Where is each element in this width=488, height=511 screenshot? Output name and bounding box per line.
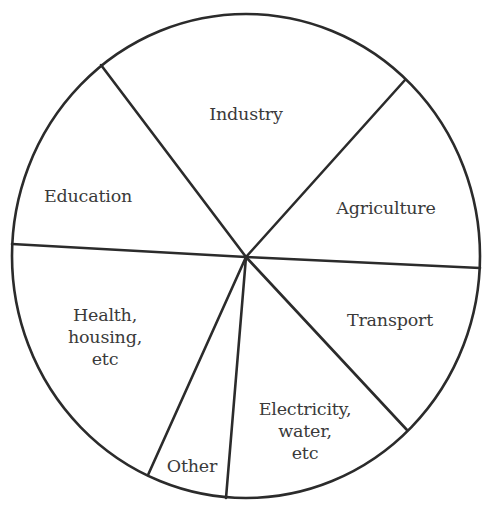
slice-label-health-housing: Health, housing, etc xyxy=(68,304,142,370)
slice-label-agriculture: Agriculture xyxy=(336,197,435,219)
slice-label-electricity-water: Electricity, water, etc xyxy=(259,398,352,464)
slice-label-other: Other xyxy=(167,455,217,477)
pie-chart xyxy=(0,0,488,511)
slice-label-education: Education xyxy=(44,185,132,207)
slice-label-industry: Industry xyxy=(209,103,282,125)
slice-label-transport: Transport xyxy=(347,309,433,331)
